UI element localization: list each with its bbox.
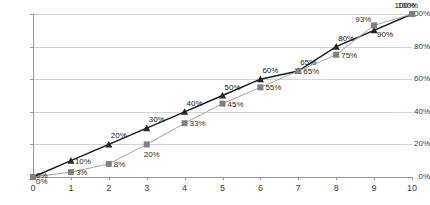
data-point-marker <box>220 101 226 107</box>
data-point-marker <box>333 52 339 58</box>
data-point-marker <box>105 141 112 148</box>
data-point-label: 8% <box>114 161 126 169</box>
data-point-marker <box>257 84 263 90</box>
data-point-marker <box>295 68 301 74</box>
data-point-label: 33% <box>190 120 206 128</box>
data-point-marker <box>181 108 188 115</box>
data-point-marker <box>144 141 150 147</box>
data-point-marker <box>182 120 188 126</box>
data-point-label: 55% <box>265 84 281 92</box>
data-point-label: 20% <box>111 132 127 140</box>
data-point-label: 65% <box>303 68 319 76</box>
series-layer <box>0 0 430 205</box>
data-point-label: 75% <box>341 52 357 60</box>
data-point-marker <box>219 92 226 99</box>
data-point-label: 90% <box>377 31 393 39</box>
data-point-marker <box>371 22 377 28</box>
data-point-marker <box>409 11 415 17</box>
data-point-label: 45% <box>228 101 244 109</box>
data-point-label: 80% <box>338 35 354 43</box>
data-point-label: 20% <box>144 151 160 159</box>
data-point-marker <box>333 43 340 50</box>
data-point-marker <box>68 169 74 175</box>
data-point-label: 40% <box>187 100 203 108</box>
data-point-label: 10% <box>75 158 91 166</box>
data-point-label: 60% <box>262 67 278 75</box>
line-chart: 0%20%40%60%80%100% 012345678910 0%10%20%… <box>0 0 430 205</box>
data-point-marker <box>143 125 150 132</box>
data-point-label: 0% <box>36 178 48 186</box>
data-point-label: 30% <box>149 116 165 124</box>
data-point-label: 50% <box>225 84 241 92</box>
data-point-label: 93% <box>355 16 371 24</box>
data-point-marker <box>106 161 112 167</box>
data-point-label: 100% <box>398 2 418 10</box>
data-point-marker <box>67 157 74 164</box>
data-point-label: 3% <box>76 169 88 177</box>
data-point-label: 65% <box>300 59 316 67</box>
